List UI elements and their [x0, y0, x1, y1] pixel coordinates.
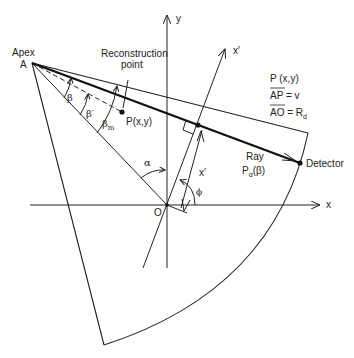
x-prime-distance-label: x′: [199, 167, 206, 178]
point-detector: [297, 160, 302, 165]
beta-m-label: βm: [102, 118, 115, 132]
point-origin: [165, 203, 169, 207]
alpha-label: α: [144, 157, 151, 168]
ray-projection-label: Pα(β): [242, 165, 265, 178]
x-prime-axis: [143, 49, 225, 268]
ray-label: Ray: [246, 151, 264, 162]
origin-label: O: [154, 207, 162, 218]
phi-label: ϕ: [196, 187, 202, 197]
reconstruction-label-2: point: [121, 59, 143, 70]
detector-arc: [104, 133, 308, 345]
apex-letter: A: [20, 59, 27, 70]
x-prime-axis-label: x′: [233, 45, 240, 56]
alpha-arc: [141, 170, 165, 178]
dashed-line-AP: [32, 63, 122, 112]
point-foot: [195, 122, 200, 127]
fan-edge-top: [32, 63, 308, 133]
legend-line-3: AO = Rd: [270, 107, 307, 120]
reconstruction-label: Reconstruction: [101, 48, 168, 59]
ray-line: [32, 63, 300, 163]
detector-label: Detector: [306, 158, 344, 169]
beta-prime-label: β′: [86, 108, 95, 119]
legend: P (x,y) AP = v AO = Rd: [270, 73, 307, 120]
point-P-label: P(x,y): [126, 116, 152, 127]
reconstruction-leader: [123, 80, 128, 108]
apex-label: Apex: [12, 47, 35, 58]
beta-label: β: [67, 92, 73, 103]
legend-line-1: P (x,y): [270, 73, 299, 84]
y-axis-label: y: [176, 13, 181, 24]
fan-beam-geometry-diagram: Apex A Reconstruction point P(x,y) O x y…: [0, 0, 354, 358]
point-P: [119, 109, 124, 114]
legend-line-2: AP = v: [270, 90, 300, 101]
x-axis-label: x: [326, 199, 331, 210]
central-ray-AO: [32, 63, 167, 205]
fan-edge-left: [32, 63, 104, 345]
